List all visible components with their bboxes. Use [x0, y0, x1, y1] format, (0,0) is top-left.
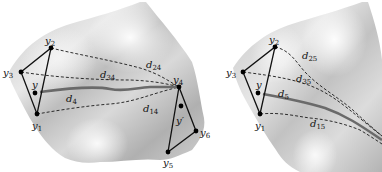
label-y: y: [31, 79, 38, 90]
point-y6: [194, 129, 199, 134]
label-y-right: y: [255, 79, 262, 90]
point-y-right: [256, 91, 261, 96]
geodesic-diagram: y2 y3 y y1 y4 y′ y6 y5 d24 d34 d4 d14 y2…: [0, 0, 382, 172]
label-y6: y6: [199, 127, 211, 140]
point-y1: [35, 112, 40, 117]
point-yprime: [179, 104, 184, 109]
point-y1-right: [258, 112, 263, 117]
left-panel: y2 y3 y y1 y4 y′ y6 y5 d24 d34 d4 d14: [2, 2, 211, 170]
point-y5: [166, 150, 171, 155]
point-y: [33, 91, 38, 96]
point-y3-right: [241, 70, 246, 75]
label-yprime: y′: [175, 115, 185, 126]
label-y5: y5: [162, 157, 173, 170]
point-y3: [19, 70, 24, 75]
right-panel: y2 y3 y y1 d25 d35 d5 d15: [225, 2, 382, 172]
